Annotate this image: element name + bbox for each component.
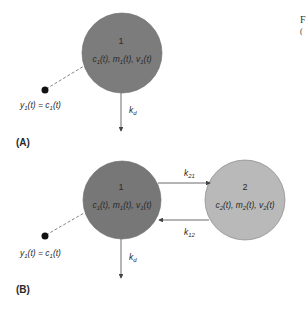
transfer-21-label: k21 — [184, 168, 195, 179]
cutoff-caption-line2: ( — [300, 27, 303, 36]
elimination-rate-label: kd — [129, 252, 137, 263]
observation-dashed-line — [46, 66, 84, 89]
observation-equation: y1(t) = c1(t) — [19, 248, 61, 259]
panel-b-label: (B) — [16, 284, 30, 295]
observation-point-icon — [42, 233, 49, 240]
compartment-1-number: 1 — [118, 36, 123, 46]
transfer-12-label: k12 — [184, 227, 196, 238]
compartment-2-number: 2 — [242, 182, 247, 192]
observation-equation: y1(t) = c1(t) — [19, 100, 61, 111]
pk-compartment-diagram: 1 c1(t), m1(t), v1(t) y1(t) = c1(t) kd (… — [0, 0, 307, 311]
observation-dashed-line — [46, 213, 84, 235]
compartment-1-number: 1 — [118, 182, 123, 192]
observation-point-icon — [42, 87, 49, 94]
panel-a: 1 c1(t), m1(t), v1(t) y1(t) = c1(t) kd (… — [16, 13, 162, 148]
panel-a-label: (A) — [16, 137, 30, 148]
elimination-rate-label: kd — [129, 105, 137, 116]
compartment-1-circle — [82, 13, 162, 93]
panel-b: 1 c1(t), m1(t), v1(t) 2 c2(t), m2(t), v2… — [16, 160, 285, 295]
cutoff-caption-line1: F — [300, 14, 306, 25]
